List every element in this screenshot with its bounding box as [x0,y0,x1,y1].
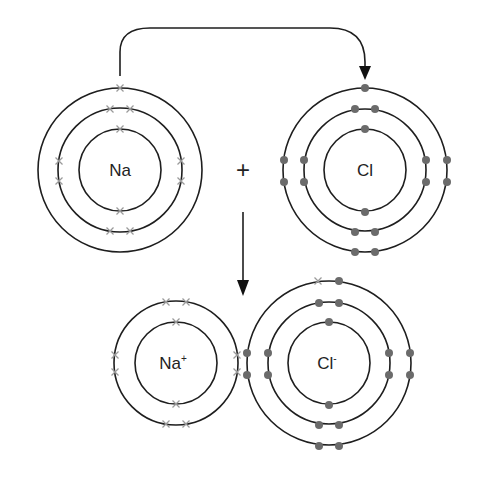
cl-ion-label: Cl- [317,353,336,374]
reaction-arrow [237,212,249,296]
ionic-bond-diagram: Na + Cl [0,0,477,478]
sodium-ion: Na+ [112,299,241,428]
chloride-ion: Cl- [243,277,414,450]
sodium-atom: Na [38,85,202,253]
electron-transfer-arrow [120,28,371,80]
na-ion-label: Na+ [159,353,187,374]
plus-sign: + [236,156,250,183]
cl-label: Cl [357,161,373,180]
chlorine-atom: Cl [280,84,451,256]
na-label: Na [109,161,131,180]
